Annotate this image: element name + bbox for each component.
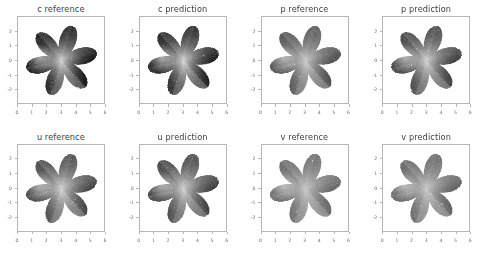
x-tick-mark	[412, 232, 413, 235]
x-tick-label: 5	[211, 238, 214, 243]
x-tick-label: 3	[60, 110, 63, 115]
x-tick-mark	[349, 232, 350, 235]
y-tick-label: 2	[374, 28, 377, 33]
scatter-points	[262, 17, 348, 103]
x-tick-label: 0	[259, 238, 262, 243]
plot-area	[139, 144, 227, 232]
x-tick-mark	[397, 104, 398, 107]
panel-title: v reference	[244, 132, 366, 142]
x-tick-label: 5	[454, 238, 457, 243]
plot-area	[17, 16, 105, 104]
x-tick-label: 6	[225, 238, 228, 243]
panel-title: p reference	[244, 4, 366, 14]
x-tick-mark	[76, 104, 77, 107]
y-tick-label: 0	[9, 58, 12, 63]
y-tick-label: 2	[253, 28, 256, 33]
y-tick-label: 0	[374, 185, 377, 190]
x-tick-mark	[105, 232, 106, 235]
x-tick-mark	[90, 232, 91, 235]
x-tick-mark	[61, 232, 62, 235]
x-tick-mark	[305, 232, 306, 235]
x-tick-mark	[470, 232, 471, 235]
panel-v-prediction: v prediction0123456-2-1012	[365, 128, 487, 255]
x-tick-label: 4	[318, 110, 321, 115]
y-tick-label: -1	[129, 200, 134, 205]
y-tick-label: 1	[131, 170, 134, 175]
x-tick-mark	[153, 232, 154, 235]
x-tick-label: 5	[332, 110, 335, 115]
panel-c-prediction: c prediction0123456-2-1012	[122, 0, 244, 128]
x-tick-mark	[227, 104, 228, 107]
y-tick-label: -1	[7, 72, 12, 77]
panel-title: p prediction	[365, 4, 487, 14]
panel-p-prediction: p prediction0123456-2-1012	[365, 0, 487, 128]
panel-title: c reference	[0, 4, 122, 14]
x-tick-mark	[426, 104, 427, 107]
plot-area	[261, 144, 349, 232]
y-tick-label: 2	[9, 156, 12, 161]
x-tick-mark	[32, 232, 33, 235]
x-tick-label: 0	[381, 110, 384, 115]
x-tick-label: 5	[89, 238, 92, 243]
x-tick-mark	[139, 232, 140, 235]
x-tick-mark	[334, 232, 335, 235]
x-tick-mark	[261, 104, 262, 107]
x-tick-label: 4	[439, 238, 442, 243]
panel-title: u reference	[0, 132, 122, 142]
x-tick-label: 1	[152, 110, 155, 115]
scatter-points	[140, 145, 226, 231]
x-tick-label: 3	[181, 110, 184, 115]
x-tick-label: 4	[439, 110, 442, 115]
x-tick-label: 0	[137, 110, 140, 115]
y-tick-label: -2	[251, 214, 256, 219]
x-tick-mark	[441, 104, 442, 107]
x-tick-label: 5	[89, 110, 92, 115]
x-tick-label: 2	[410, 110, 413, 115]
y-tick-label: -2	[7, 87, 12, 92]
panel-grid: c reference0123456-2-1012c prediction012…	[0, 0, 487, 255]
x-tick-mark	[90, 104, 91, 107]
x-tick-label: 0	[16, 238, 19, 243]
scatter-points	[18, 145, 104, 231]
x-tick-label: 6	[347, 110, 350, 115]
panel-u-prediction: u prediction0123456-2-1012	[122, 128, 244, 255]
x-tick-label: 0	[137, 238, 140, 243]
x-tick-label: 6	[469, 238, 472, 243]
x-tick-label: 4	[196, 110, 199, 115]
x-tick-mark	[105, 104, 106, 107]
panel-p-reference: p reference0123456-2-1012	[244, 0, 366, 128]
x-tick-mark	[305, 104, 306, 107]
x-tick-mark	[76, 232, 77, 235]
x-tick-mark	[139, 104, 140, 107]
y-tick-label: -1	[129, 72, 134, 77]
y-tick-label: 0	[253, 185, 256, 190]
y-tick-label: 1	[253, 43, 256, 48]
plot-area	[17, 144, 105, 232]
y-tick-label: 2	[131, 156, 134, 161]
x-tick-mark	[227, 232, 228, 235]
x-tick-mark	[275, 104, 276, 107]
x-tick-mark	[412, 104, 413, 107]
x-tick-mark	[153, 104, 154, 107]
panel-title: v prediction	[365, 132, 487, 142]
x-tick-mark	[212, 232, 213, 235]
x-tick-label: 1	[395, 238, 398, 243]
scatter-points	[18, 17, 104, 103]
x-tick-mark	[32, 104, 33, 107]
x-tick-mark	[183, 104, 184, 107]
x-tick-label: 6	[225, 110, 228, 115]
x-tick-mark	[17, 232, 18, 235]
x-tick-label: 4	[74, 238, 77, 243]
y-tick-label: 1	[253, 170, 256, 175]
x-tick-mark	[456, 104, 457, 107]
y-tick-label: 1	[374, 43, 377, 48]
x-tick-label: 3	[425, 238, 428, 243]
x-tick-label: 5	[211, 110, 214, 115]
x-tick-mark	[197, 104, 198, 107]
y-tick-label: -2	[251, 87, 256, 92]
x-tick-label: 2	[167, 238, 170, 243]
x-tick-label: 6	[347, 238, 350, 243]
y-tick-label: -2	[7, 214, 12, 219]
x-tick-label: 4	[318, 238, 321, 243]
y-tick-label: -1	[7, 200, 12, 205]
